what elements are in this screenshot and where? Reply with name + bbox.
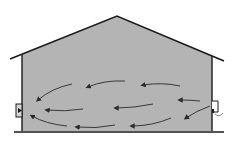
airflow-diagram: Building cross-section airflow [0, 0, 235, 148]
incoming-air-icon [215, 113, 223, 116]
interior-fill [22, 16, 212, 131]
building-interior [22, 16, 212, 131]
inlet-flap-icon [212, 109, 214, 113]
